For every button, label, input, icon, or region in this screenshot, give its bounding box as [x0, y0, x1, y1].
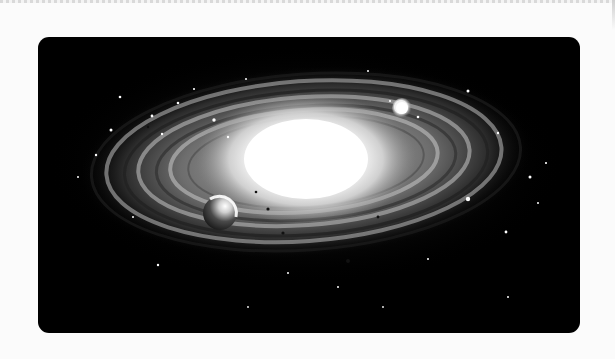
galaxy-image-frame [38, 37, 580, 333]
planet-left [203, 196, 237, 230]
torn-page-edge [0, 0, 615, 3]
planet-right [392, 98, 412, 118]
galaxy-illustration [38, 37, 580, 333]
